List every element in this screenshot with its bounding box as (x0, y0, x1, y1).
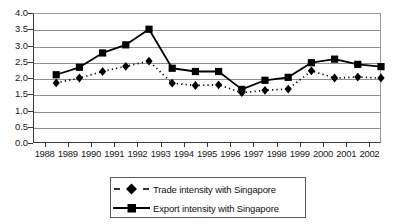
gridline (34, 79, 380, 80)
plot-area (33, 13, 381, 143)
y-axis-tick-mark (28, 78, 33, 79)
y-axis-tick-label: 3.5 (0, 24, 28, 34)
x-axis-tick-mark (45, 143, 46, 147)
x-axis-tick-mark (369, 143, 370, 147)
y-axis-tick-label: 0.5 (0, 122, 28, 132)
y-axis-tick-label: 3.0 (0, 41, 28, 51)
y-axis-tick-mark (28, 94, 33, 95)
x-axis-tick-mark (253, 143, 254, 147)
legend-label-trade-intensity: Trade intensity with Singapore (153, 184, 276, 195)
y-axis-tick-mark (28, 143, 33, 144)
gridline (34, 112, 380, 113)
y-axis-tick-label: 0.0 (0, 138, 28, 148)
y-axis-tick-label: 1.5 (0, 89, 28, 99)
y-axis-tick-label: 2.0 (0, 73, 28, 83)
gridline (34, 128, 380, 129)
y-axis-tick-mark (28, 46, 33, 47)
gridline (34, 63, 380, 64)
chart-legend: Trade intensity with Singapore Export in… (110, 177, 306, 218)
legend-label-export-intensity: Export intensity with Singapore (153, 203, 279, 214)
y-axis-tick-mark (28, 29, 33, 30)
legend-key-diamond-icon (111, 180, 153, 198)
x-axis-tick-mark (207, 143, 208, 147)
gridline (34, 47, 380, 48)
x-axis-tick-mark (137, 143, 138, 147)
x-axis-tick-mark (68, 143, 69, 147)
gridline (34, 30, 380, 31)
x-axis-tick-mark (346, 143, 347, 147)
y-axis-tick-mark (28, 13, 33, 14)
x-axis-tick-label: 2002 (352, 149, 386, 159)
chart-figure: 0.00.51.01.52.02.53.03.54.0 198819891990… (0, 0, 405, 224)
legend-key-square-icon (111, 199, 153, 217)
x-axis-tick-mark (184, 143, 185, 147)
x-axis-tick-mark (91, 143, 92, 147)
y-axis-tick-label: 2.5 (0, 57, 28, 67)
x-axis-tick-mark (300, 143, 301, 147)
legend-item-trade-intensity[interactable]: Trade intensity with Singapore (111, 179, 305, 199)
x-axis-tick-mark (114, 143, 115, 147)
y-axis-tick-mark (28, 111, 33, 112)
x-axis-tick-mark (323, 143, 324, 147)
legend-item-export-intensity[interactable]: Export intensity with Singapore (111, 198, 305, 218)
x-axis-tick-mark (230, 143, 231, 147)
y-axis-tick-label: 1.0 (0, 106, 28, 116)
y-axis-tick-label: 4.0 (0, 8, 28, 18)
x-axis-tick-mark (161, 143, 162, 147)
y-axis-tick-mark (28, 127, 33, 128)
x-axis-tick-mark (277, 143, 278, 147)
y-axis-tick-mark (28, 62, 33, 63)
gridline (34, 95, 380, 96)
